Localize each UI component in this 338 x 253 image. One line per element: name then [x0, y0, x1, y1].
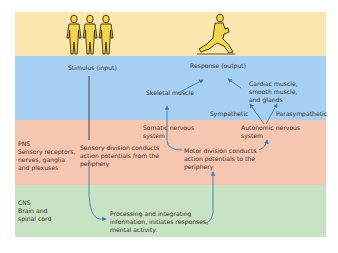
pns-desc-line: nerves, ganglia — [18, 156, 65, 163]
pns-desc-line: Sensory receptors, — [18, 148, 75, 155]
stimulus-label: Stimulus (input) — [68, 64, 117, 71]
somatic-line: Somatic nervous — [143, 124, 194, 131]
motor-line: Motor division conducts — [184, 147, 256, 154]
sensory-line: periphery — [80, 160, 109, 167]
sensory-line: Sensory division conducts — [80, 144, 159, 151]
sympathetic-label: Sympathetic — [210, 110, 248, 117]
response-label: Response (output) — [190, 62, 246, 69]
pns-title: PNS — [18, 140, 30, 147]
effector-line: smooth muscle, — [249, 88, 297, 95]
autonomic-line: Autonomic nervous — [241, 124, 300, 131]
cns-desc-line: Brain and — [18, 207, 47, 214]
processing-line: mental activity — [110, 226, 156, 233]
processing-line: information, initiates responses, — [110, 218, 208, 225]
motor-line: action potentials to the — [184, 155, 255, 162]
effector-line: and glands — [249, 96, 283, 103]
skeletal-muscle-label: Skeletal muscle — [146, 89, 194, 96]
parasympathetic-label: Parasympathetic — [276, 110, 327, 117]
cns-title: CNS — [18, 199, 31, 206]
somatic-line: system — [143, 132, 165, 139]
motor-line: periphery — [184, 163, 213, 170]
effector-line: Cardiac muscle, — [249, 80, 298, 87]
pns-desc-line: and plexuses — [18, 164, 58, 171]
autonomic-line: system — [241, 132, 263, 139]
cns-desc-line: spinal cord — [18, 215, 51, 222]
sensory-line: action potentials from the — [80, 152, 159, 159]
processing-line: Processing and integrating — [110, 210, 192, 217]
